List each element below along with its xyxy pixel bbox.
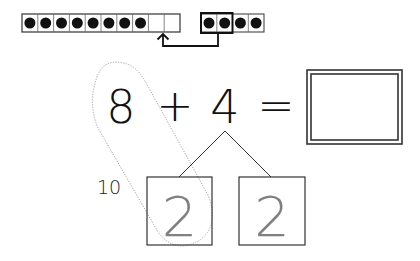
- answer-box[interactable]: [307, 70, 402, 144]
- plus-sign: +: [157, 80, 194, 131]
- part-box-2[interactable]: 2: [239, 177, 305, 249]
- move-arrow: [158, 33, 219, 46]
- equals-sign: =: [258, 80, 295, 131]
- number-bond-lines: [179, 131, 271, 177]
- part-1-value: 2: [162, 184, 198, 249]
- four-frame: [201, 13, 264, 33]
- part-2-value: 2: [254, 184, 290, 249]
- addend-2: 4: [210, 80, 239, 134]
- addend-1: 8: [106, 80, 135, 134]
- ten-frame: [22, 14, 180, 32]
- make-ten-label: 10: [97, 176, 121, 198]
